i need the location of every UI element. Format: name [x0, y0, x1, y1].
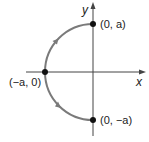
x-axis-label: x: [136, 76, 142, 88]
point-label-top: (0, a): [100, 19, 126, 30]
point-label-bottom: (0, −a): [100, 115, 132, 126]
y-axis-arrow-icon: [91, 2, 96, 9]
x-axis-arrow-icon: [139, 70, 146, 75]
point-bottom: [90, 117, 96, 123]
semicircle-diagram: y x (0, a) (−a, 0) (0, −a): [0, 0, 149, 142]
point-left: [42, 69, 48, 75]
point-label-left: (−a, 0): [9, 77, 41, 88]
point-top: [90, 21, 96, 27]
y-axis-label: y: [82, 4, 88, 16]
